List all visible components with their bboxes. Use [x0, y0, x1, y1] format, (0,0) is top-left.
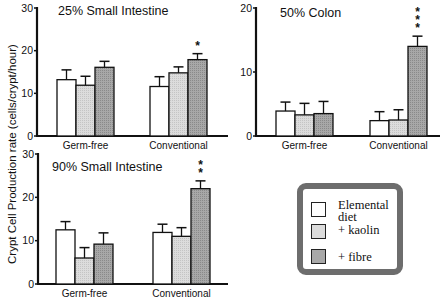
bar — [408, 46, 427, 136]
svg-text:10: 10 — [240, 66, 252, 78]
bar — [314, 114, 333, 136]
legend-swatch-kaolin — [311, 224, 326, 239]
svg-text:0: 0 — [28, 278, 34, 290]
bar — [276, 111, 295, 136]
svg-text:20: 20 — [240, 2, 252, 14]
svg-text:*: * — [198, 158, 203, 172]
legend-label: + kaolin — [338, 224, 379, 236]
panel-title: 90% Small Intestine — [52, 160, 162, 174]
svg-text:Conventional: Conventional — [369, 140, 427, 151]
bar — [389, 120, 408, 136]
svg-text:Germ-free: Germ-free — [62, 288, 108, 299]
bar — [75, 258, 94, 284]
legend-swatch-elemental — [311, 202, 326, 217]
svg-text:30: 30 — [22, 148, 34, 160]
svg-text:*: * — [415, 5, 420, 19]
legend-item-fibre: + fibre — [311, 249, 372, 264]
svg-text:Germ-free: Germ-free — [282, 140, 328, 151]
bar — [172, 236, 191, 284]
bar — [153, 232, 172, 284]
bar — [370, 121, 389, 136]
svg-text:Conventional: Conventional — [152, 288, 210, 299]
svg-text:10: 10 — [22, 234, 34, 246]
bar — [56, 230, 75, 284]
chart-panel-90-small-intestine: 0102030Germ-free**Conventional 90% Small… — [0, 0, 230, 301]
bar-chart: 0102030Germ-free**Conventional — [0, 0, 230, 301]
svg-text:20: 20 — [22, 191, 34, 203]
bar — [295, 115, 314, 136]
bar — [191, 189, 210, 284]
legend: Elemental diet + kaolin + fibre — [297, 183, 403, 275]
legend-label: + fibre — [338, 251, 372, 263]
svg-text:0: 0 — [246, 130, 252, 142]
legend-item-kaolin: + kaolin — [311, 224, 379, 239]
bar — [94, 244, 113, 284]
legend-item-elemental: Elemental diet — [311, 199, 394, 223]
legend-swatch-fibre — [311, 249, 326, 264]
legend-label: Elemental diet — [338, 199, 394, 223]
panel-title: 50% Colon — [280, 6, 341, 20]
